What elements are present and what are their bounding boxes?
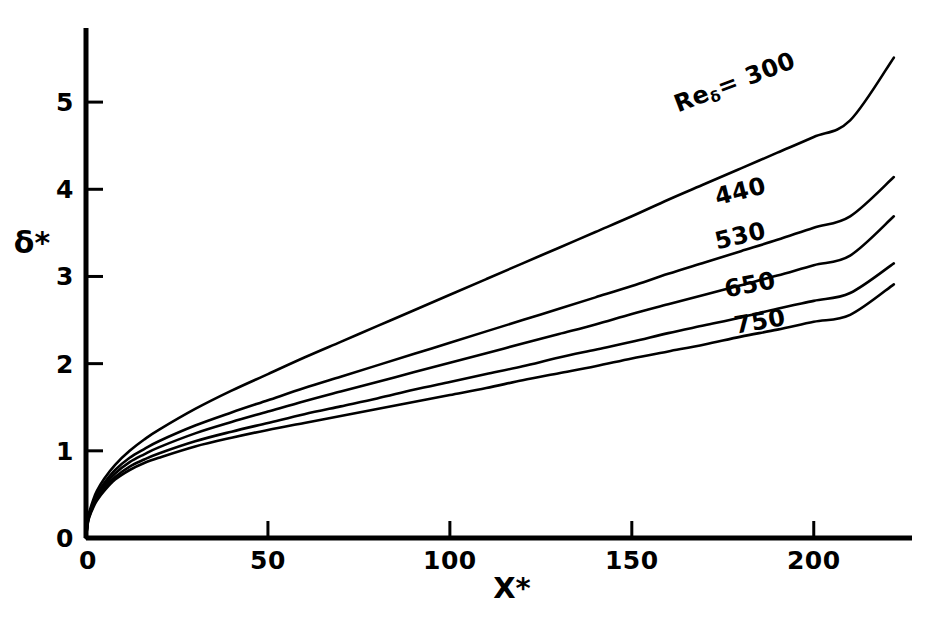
y-tick-label: 0 — [56, 524, 74, 553]
y-tick-label: 1 — [56, 436, 74, 465]
axes-group — [86, 28, 912, 538]
x-tick-label: 0 — [79, 546, 97, 575]
data-curve — [86, 216, 894, 538]
y-tick-label: 3 — [56, 262, 74, 291]
y-axis-title: δ* — [14, 225, 50, 260]
figure-canvas: 012345050100150200 δ* X* Reδ= 300 440 53… — [0, 0, 933, 624]
tick-marks-group — [86, 102, 814, 538]
x-tick-label: 50 — [250, 546, 286, 575]
x-tick-label: 150 — [605, 546, 659, 575]
x-axis-title: X* — [493, 571, 531, 605]
x-tick-label: 200 — [787, 546, 841, 575]
y-tick-label: 4 — [56, 175, 74, 204]
data-curve — [86, 58, 894, 538]
y-tick-label: 2 — [56, 349, 74, 378]
data-curve — [86, 177, 894, 538]
y-tick-label: 5 — [56, 88, 74, 117]
x-tick-label: 100 — [423, 546, 477, 575]
data-curves-group — [86, 58, 894, 538]
chart-plot-area — [0, 0, 933, 624]
